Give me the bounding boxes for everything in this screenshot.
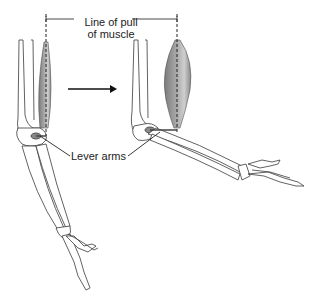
line-of-pull-label-line1: Line of pull bbox=[78, 16, 144, 28]
hand-bones bbox=[248, 160, 280, 168]
arm-flexed bbox=[131, 40, 304, 186]
lever-arms-label: Lever arms bbox=[71, 150, 126, 162]
humerus-bone bbox=[18, 40, 42, 141]
muscle-flexed bbox=[164, 40, 191, 128]
line-of-pull-label: Line of pull of muscle bbox=[78, 16, 144, 40]
wrist-bones bbox=[238, 164, 250, 180]
arm-extended bbox=[17, 40, 98, 290]
forearm-bones bbox=[148, 128, 242, 172]
line-of-pull-label-line2: of muscle bbox=[78, 28, 144, 40]
lever-arm-diagram: Line of pull of muscle Lever arms bbox=[0, 0, 326, 298]
transition-arrow bbox=[68, 85, 117, 93]
diagram-canvas bbox=[0, 0, 326, 298]
muscle-extended bbox=[39, 42, 51, 128]
